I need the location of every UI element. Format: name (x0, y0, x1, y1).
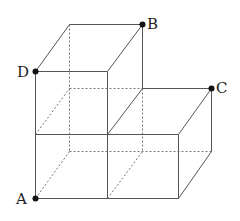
visible-edge (36, 25, 70, 72)
hidden-edge (108, 152, 143, 199)
visible-edge (179, 89, 212, 135)
visible-edge (179, 152, 212, 199)
visible-edge (108, 25, 143, 72)
visible-edge (108, 89, 143, 135)
point-d-dot (33, 69, 39, 75)
point-a-label: A (15, 190, 27, 208)
point-b-dot (140, 22, 146, 28)
cube-diagram: ABCD (0, 0, 240, 221)
hidden-edge (36, 152, 70, 199)
point-a-dot (33, 196, 39, 202)
point-d-label: D (17, 63, 29, 81)
hidden-edge (36, 89, 70, 135)
solid-edges (36, 25, 212, 199)
point-b-label: B (147, 15, 158, 33)
point-c-label: C (216, 79, 227, 97)
point-c-dot (209, 86, 215, 92)
